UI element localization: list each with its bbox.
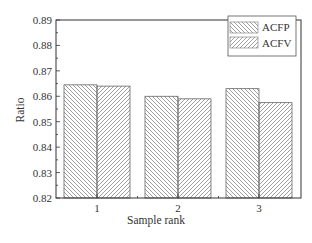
bar-acfp-2 xyxy=(145,96,178,198)
y-axis-title: Ratio xyxy=(14,97,26,122)
bar-acfv-2 xyxy=(178,99,211,198)
y-tick-label: 0.88 xyxy=(33,39,53,51)
bar-acfv-1 xyxy=(97,86,130,198)
y-tick-label: 0.86 xyxy=(33,90,53,102)
legend-label-acfv: ACFV xyxy=(262,37,291,49)
bar-acfp-1 xyxy=(64,85,97,198)
bar-chart: 0.820.830.840.850.860.870.880.89 123 Sam… xyxy=(0,0,312,243)
y-tick-label: 0.84 xyxy=(33,141,53,153)
bar-acfp-3 xyxy=(226,89,259,198)
legend: ACFP ACFV xyxy=(228,16,296,56)
y-tick-label: 0.85 xyxy=(33,116,53,128)
y-tick-label: 0.87 xyxy=(33,65,53,77)
legend-swatch-acfp xyxy=(230,22,258,33)
x-tick-label: 1 xyxy=(94,202,100,214)
y-tick-label: 0.82 xyxy=(33,192,52,204)
legend-swatch-acfv xyxy=(230,37,258,48)
y-tick-label: 0.83 xyxy=(33,167,53,179)
x-axis-title: Sample rank xyxy=(127,214,185,227)
legend-label-acfp: ACFP xyxy=(262,21,290,33)
bars-group xyxy=(64,85,292,198)
x-tick-label: 2 xyxy=(175,202,181,214)
y-tick-label: 0.89 xyxy=(33,14,53,26)
x-tick-label: 3 xyxy=(256,202,262,214)
bar-acfv-3 xyxy=(259,103,292,198)
